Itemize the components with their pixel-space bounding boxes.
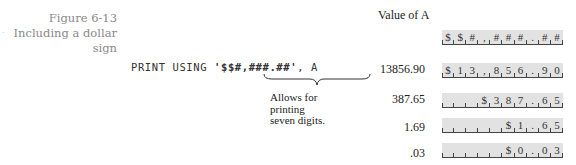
output-cell: . (527, 143, 539, 158)
output-cell: 5 (551, 93, 563, 108)
output-cell: $ (502, 118, 514, 133)
output-cell: $ (502, 143, 514, 158)
output-cell (442, 143, 454, 158)
output-cell (478, 143, 490, 158)
column-header-value-of-a: Value of A (378, 8, 429, 23)
output-cell (454, 118, 466, 133)
output-cell: 1 (515, 118, 527, 133)
output-cell (442, 118, 454, 133)
mask-cell: # (551, 30, 563, 45)
annotation-line: Allows for (270, 92, 325, 104)
output-box: $ 1 . 6 5 (442, 118, 563, 133)
output-cell: 5 (551, 118, 563, 133)
mask-cell: , (478, 30, 490, 45)
statement-suffix: , A (297, 61, 318, 73)
mask-cell: # (515, 30, 527, 45)
output-cell: $ (442, 63, 454, 78)
figure-title: Including a dollar sign (0, 26, 117, 56)
output-cell: 0 (551, 63, 563, 78)
print-using-statement: PRINT USING '$$#,###.##', A (131, 61, 318, 73)
output-box: $ 0 . 0 3 (442, 143, 563, 158)
output-cell: 6 (539, 118, 551, 133)
output-cell: 8 (502, 93, 514, 108)
output-cell (454, 143, 466, 158)
output-cell: 8 (490, 63, 502, 78)
output-cell (466, 93, 478, 108)
statement-prefix: PRINT USING (131, 61, 214, 73)
mask-cell: # (466, 30, 478, 45)
output-cell: 6 (539, 93, 551, 108)
output-cell: . (527, 118, 539, 133)
output-cell: $ (478, 93, 490, 108)
brace-annotation: Allows for printing seven digits. (270, 92, 325, 127)
mask-cell: $ (442, 30, 454, 45)
output-cell (466, 118, 478, 133)
output-cell: . (527, 63, 539, 78)
mask-cell: $ (454, 30, 466, 45)
mask-cell: . (527, 30, 539, 45)
output-cell: 3 (551, 143, 563, 158)
output-cell (454, 93, 466, 108)
mask-cell: # (502, 30, 514, 45)
format-mask-box: $ $ # , # # # . # # (442, 30, 563, 45)
output-box: $ 1 3 , 8 5 6 . 9 0 (442, 63, 563, 78)
value-a: 13856.90 (380, 62, 425, 77)
output-cell: 5 (502, 63, 514, 78)
output-cell (490, 143, 502, 158)
value-a: .03 (410, 146, 425, 161)
mask-cell: # (490, 30, 502, 45)
output-cell: 1 (454, 63, 466, 78)
figure-caption: Figure 6-13 Including a dollar sign (0, 11, 117, 56)
curly-brace-icon (262, 73, 372, 87)
value-a: 1.69 (404, 120, 425, 135)
output-cell: 9 (539, 63, 551, 78)
output-cell: . (527, 93, 539, 108)
output-cell: 7 (515, 93, 527, 108)
output-cell: 0 (515, 143, 527, 158)
figure-number: Figure 6-13 (0, 11, 117, 26)
output-cell (490, 118, 502, 133)
output-cell (466, 143, 478, 158)
output-cell (442, 93, 454, 108)
value-a: 387.65 (392, 92, 425, 107)
margin-dot: · (2, 28, 5, 37)
mask-cell: # (539, 30, 551, 45)
format-string: '$$#,###.##' (214, 61, 297, 73)
output-cell: 3 (490, 93, 502, 108)
output-cell: , (478, 63, 490, 78)
output-cell: 6 (515, 63, 527, 78)
output-box: $ 3 8 7 . 6 5 (442, 93, 563, 108)
annotation-line: seven digits. (270, 115, 325, 127)
output-cell: 0 (539, 143, 551, 158)
output-cell: 3 (466, 63, 478, 78)
output-cell (478, 118, 490, 133)
